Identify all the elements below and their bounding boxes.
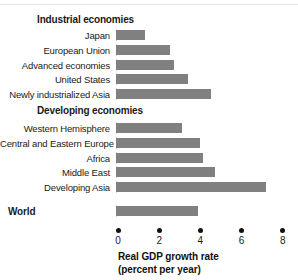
bar-track bbox=[114, 180, 298, 194]
x-tick-dot-icon bbox=[239, 228, 244, 233]
chart-row: Newly industrialized Asia bbox=[0, 87, 298, 101]
x-axis-title: Real GDP growth rate (percent per year) bbox=[118, 251, 298, 276]
x-tick-label: 4 bbox=[193, 235, 207, 247]
x-tick-6: 6 bbox=[235, 228, 249, 247]
bar-track bbox=[114, 87, 298, 101]
category-label: European Union bbox=[0, 45, 114, 56]
x-tick-dot-icon bbox=[157, 228, 162, 233]
chart-row: United States bbox=[0, 72, 298, 86]
bar-track bbox=[114, 121, 298, 135]
x-tick-2: 2 bbox=[152, 228, 166, 247]
chart-row: Developing Asia bbox=[0, 180, 298, 194]
chart-row: European Union bbox=[0, 43, 298, 57]
x-tick-4: 4 bbox=[193, 228, 207, 247]
chart-row: Japan bbox=[0, 28, 298, 42]
bar-track bbox=[114, 43, 298, 57]
chart-row: Western Hemisphere bbox=[0, 121, 298, 135]
bar[interactable] bbox=[116, 138, 200, 148]
bar[interactable] bbox=[116, 74, 188, 84]
bar[interactable] bbox=[116, 45, 170, 55]
top-divider bbox=[0, 4, 298, 5]
category-label: Developing Asia bbox=[0, 182, 114, 193]
bar[interactable] bbox=[116, 89, 211, 99]
bar-track bbox=[114, 72, 298, 86]
bar-track bbox=[114, 58, 298, 72]
gdp-growth-bar-chart: Industrial economiesJapanEuropean UnionA… bbox=[0, 0, 298, 280]
bar-track bbox=[114, 136, 298, 150]
category-label: Newly industrialized Asia bbox=[0, 89, 114, 100]
category-label: Advanced economies bbox=[0, 60, 114, 71]
category-label: Middle East bbox=[0, 167, 114, 178]
chart-row: Central and Eastern Europe bbox=[0, 136, 298, 150]
group-heading-developing: Developing economies bbox=[0, 103, 298, 117]
bar[interactable] bbox=[116, 167, 215, 177]
bar[interactable] bbox=[116, 153, 203, 163]
bar-track bbox=[114, 151, 298, 165]
x-axis-title-line1: Real GDP growth rate bbox=[118, 251, 298, 264]
x-tick-label: 8 bbox=[276, 235, 290, 247]
chart-row: World bbox=[0, 204, 298, 218]
x-tick-8: 8 bbox=[276, 228, 290, 247]
chart-row: Middle East bbox=[0, 165, 298, 179]
category-label: Africa bbox=[0, 153, 114, 164]
x-axis-title-line2: (percent per year) bbox=[118, 264, 298, 277]
group-heading-industrial: Industrial economies bbox=[0, 12, 298, 26]
x-tick-dot-icon bbox=[198, 228, 203, 233]
chart-row: Africa bbox=[0, 151, 298, 165]
x-tick-dot-icon bbox=[280, 228, 285, 233]
category-label: World bbox=[0, 206, 114, 217]
x-tick-label: 6 bbox=[235, 235, 249, 247]
x-tick-label: 0 bbox=[111, 235, 125, 247]
group-heading-label: Industrial economies bbox=[0, 14, 114, 25]
x-tick-0: 0 bbox=[111, 228, 125, 247]
bar-track bbox=[114, 204, 298, 218]
category-label: Japan bbox=[0, 30, 114, 41]
group-heading-label: Developing economies bbox=[0, 105, 114, 116]
category-label: United States bbox=[0, 74, 114, 85]
bar[interactable] bbox=[116, 123, 182, 133]
bar[interactable] bbox=[116, 206, 198, 216]
bar-track bbox=[114, 28, 298, 42]
category-label: Western Hemisphere bbox=[0, 123, 114, 134]
bar-track bbox=[114, 165, 298, 179]
bar[interactable] bbox=[116, 182, 266, 192]
bar[interactable] bbox=[116, 60, 174, 70]
x-tick-dot-icon bbox=[116, 228, 121, 233]
x-tick-label: 2 bbox=[152, 235, 166, 247]
chart-row: Advanced economies bbox=[0, 58, 298, 72]
bar[interactable] bbox=[116, 30, 145, 40]
category-label: Central and Eastern Europe bbox=[0, 138, 114, 149]
